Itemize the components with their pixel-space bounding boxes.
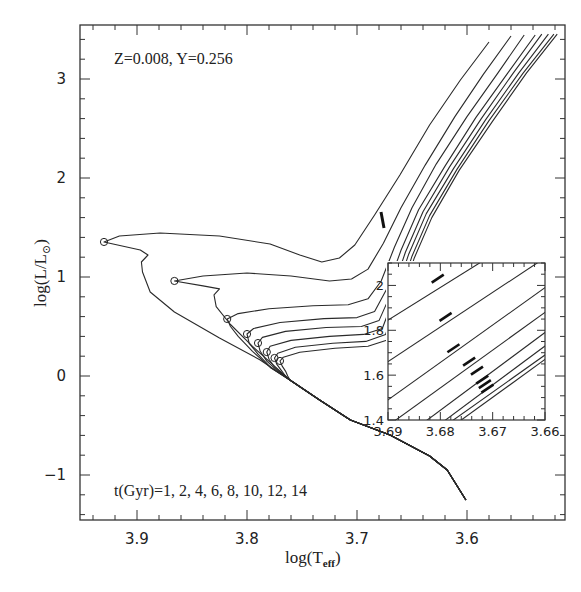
y-tick-label: 3 <box>56 70 66 88</box>
inset-x-tick-label: 3.67 <box>478 424 507 439</box>
inset-plot: 3.693.683.673.661.41.61.82 <box>357 243 577 441</box>
ages-annotation: t(Gyr)=1, 2, 4, 6, 8, 10, 12, 14 <box>114 482 307 500</box>
y-axis-label: log(L/L⊙) <box>31 239 52 307</box>
x-tick-label: 3.8 <box>235 530 259 548</box>
svg-text:log(Teff): log(Teff) <box>285 548 341 569</box>
x-tick-label: 3.6 <box>455 530 479 548</box>
clump-mark <box>381 212 384 228</box>
turnoff-markers <box>100 238 283 364</box>
x-axis-label: log(Teff) <box>285 548 341 569</box>
inset-y-tick-label: 1.4 <box>363 413 384 428</box>
inset-y-tick-label: 1.6 <box>363 368 384 383</box>
inset-x-tick-label: 3.66 <box>531 424 560 439</box>
y-tick-label: 2 <box>56 169 66 187</box>
inset-x-tick-label: 3.68 <box>426 424 455 439</box>
svg-text:log(L/L⊙): log(L/L⊙) <box>31 239 52 307</box>
hr-diagram-figure: 3.93.83.73.6−10123 Z=0.008, Y=0.256 t(Gy… <box>0 0 581 592</box>
inset-y-tick-label: 1.8 <box>363 323 384 338</box>
y-tick-label: 1 <box>56 268 66 286</box>
inset-y-tick-label: 2 <box>376 278 384 293</box>
composition-annotation: Z=0.008, Y=0.256 <box>114 50 233 67</box>
y-tick-label: 0 <box>56 367 66 385</box>
y-tick-label: −1 <box>44 466 66 484</box>
x-tick-label: 3.9 <box>125 530 149 548</box>
x-tick-label: 3.7 <box>345 530 369 548</box>
